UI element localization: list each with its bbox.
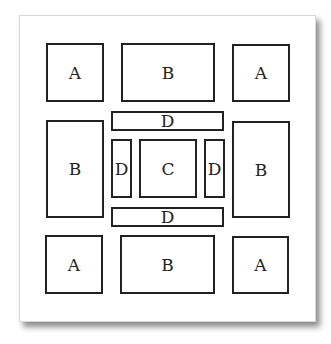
box-label: B [161, 255, 174, 275]
box-c-center: C [139, 139, 197, 198]
box-label: D [161, 207, 175, 227]
box-a-bottom-left: A [45, 235, 103, 294]
box-d-top: D [111, 111, 224, 131]
box-label: A [69, 63, 81, 83]
box-d-right: D [204, 139, 225, 198]
box-a-top-left: A [46, 43, 104, 102]
box-label: D [115, 159, 129, 179]
box-label: B [162, 63, 175, 83]
box-a-bottom-right: A [232, 236, 289, 294]
box-label: B [69, 159, 82, 179]
box-b-left: B [46, 120, 104, 218]
box-b-bottom: B [120, 235, 215, 294]
box-d-left: D [111, 139, 132, 198]
box-label: A [254, 255, 266, 275]
box-label: A [255, 63, 267, 83]
box-label: D [161, 111, 175, 131]
box-label: B [255, 160, 268, 180]
box-b-top: B [121, 43, 215, 102]
box-label: A [68, 255, 80, 275]
box-d-bottom: D [111, 207, 224, 227]
box-label: C [161, 159, 174, 179]
box-b-right: B [232, 121, 290, 218]
box-label: D [208, 159, 222, 179]
box-a-top-right: A [232, 44, 290, 102]
